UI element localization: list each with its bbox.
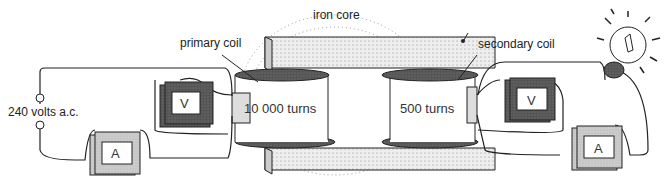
secondary-ammeter: A	[572, 126, 622, 170]
supply-terminal-top	[36, 94, 44, 102]
svg-text:A: A	[111, 146, 120, 161]
primary-turns-label: 10 000 turns	[244, 101, 317, 116]
secondary-coil: 500 turns	[382, 69, 478, 148]
primary-coil: 10 000 turns	[232, 69, 335, 148]
supply-terminal-bottom	[36, 121, 44, 129]
primary-ammeter: A	[90, 132, 140, 175]
secondary-turns-label: 500 turns	[400, 101, 455, 116]
primary-coil-label: primary coil	[180, 36, 241, 50]
transformer-diagram: 10 000 turns 500 turns 240 volts a.c. V	[0, 0, 670, 182]
svg-text:A: A	[594, 141, 603, 156]
secondary-voltmeter: V	[505, 78, 555, 122]
secondary-coil-label: secondary coil	[478, 37, 555, 51]
iron-core-label: iron core	[313, 8, 360, 22]
light-bulb-icon	[597, 9, 660, 78]
svg-text:V: V	[527, 93, 536, 108]
svg-text:V: V	[180, 96, 189, 111]
primary-voltmeter: V	[160, 82, 213, 127]
supply-label: 240 volts a.c.	[8, 105, 79, 119]
